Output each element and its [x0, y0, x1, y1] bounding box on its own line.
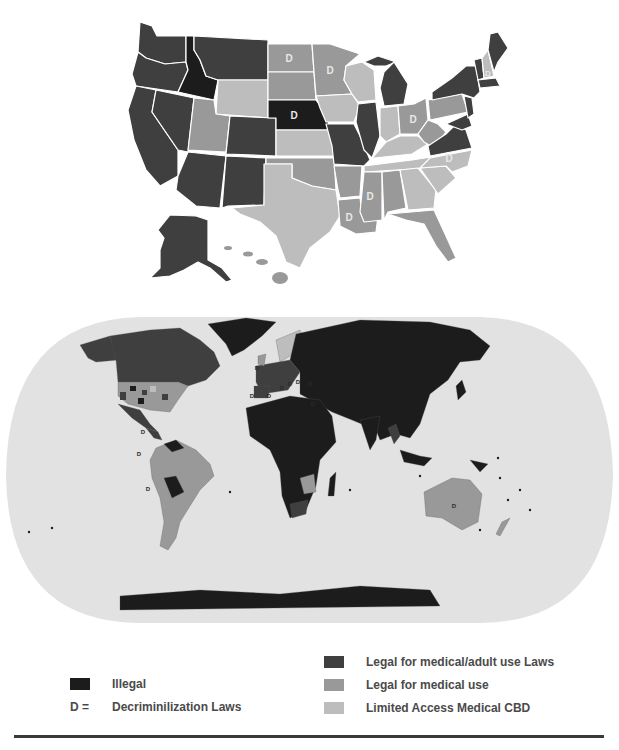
state-florida — [388, 210, 456, 262]
state-alaska — [150, 215, 232, 282]
state-wyoming — [216, 80, 268, 118]
state-arizona — [176, 152, 226, 208]
legend-decrim-label: Decriminilization Laws — [112, 700, 241, 714]
state-kansas — [276, 130, 334, 156]
decrim-marker-minnesota: D — [326, 65, 333, 76]
decrim-marker-uk: D — [255, 365, 260, 371]
decrim-marker-nebraska: D — [290, 110, 297, 121]
legend-decrim: D = Decriminilization Laws — [70, 700, 241, 714]
state-colorado — [226, 116, 276, 156]
decrim-marker-north-dakota: D — [285, 53, 292, 64]
usa-cbd-state — [150, 386, 156, 392]
decrim-marker-costa-rica: D — [137, 451, 142, 457]
cbd-swatch — [324, 702, 344, 714]
usa-legal-state — [120, 392, 126, 400]
decrim-marker-portugal: D — [250, 393, 255, 399]
decrim-marker-louisiana: D — [345, 212, 352, 223]
state-indiana — [380, 106, 400, 142]
legend-medical-label: Legal for medical use — [366, 678, 489, 692]
state-michigan-lower — [380, 62, 408, 106]
decrim-marker-north-carolina: D — [445, 153, 452, 164]
decrim-marker-spain: D — [267, 393, 272, 399]
legend-medical-adult-label: Legal for medical/adult use Laws — [366, 655, 554, 669]
medical-adult-swatch — [324, 656, 344, 668]
decrim-marker-croatia: D — [288, 381, 293, 387]
state-massachusetts — [478, 78, 500, 88]
decrim-marker-italy: D — [280, 385, 285, 391]
decrim-marker-mississippi: D — [366, 191, 373, 202]
state-south-dakota — [268, 72, 316, 100]
decrim-marker-australia: D — [452, 503, 457, 509]
state-new-york — [432, 66, 480, 100]
state-kentucky — [372, 136, 428, 158]
legend-illegal: Illegal — [70, 677, 146, 691]
usa-illegal-state — [130, 386, 136, 391]
usa-illegal-state — [138, 398, 144, 404]
legend: Illegal D = Decriminilization Laws Legal… — [0, 640, 619, 735]
decrim-marker-new-hampshire: D — [485, 69, 491, 78]
legend-medical-adult: Legal for medical/adult use Laws — [324, 655, 554, 669]
decrim-key: D = — [70, 700, 112, 714]
legend-illegal-label: Illegal — [112, 677, 146, 691]
us-map: D D D D D D D D — [0, 0, 619, 300]
state-arkansas — [334, 166, 362, 198]
state-new-mexico — [222, 156, 266, 208]
decrim-marker-peru: D — [146, 486, 151, 492]
decrim-marker-israel: D — [311, 401, 316, 407]
legend-cbd-label: Limited Access Medical CBD — [366, 701, 530, 715]
bottom-divider — [14, 735, 604, 738]
state-hawaii — [224, 246, 288, 284]
legend-cbd: Limited Access Medical CBD — [324, 701, 530, 715]
legend-medical: Legal for medical use — [324, 678, 489, 692]
state-montana — [194, 36, 268, 80]
usa-legal-state — [142, 390, 147, 395]
decrim-marker-ukraine: D — [308, 381, 313, 387]
decrim-marker-jamaica: D — [141, 429, 146, 435]
medical-swatch — [324, 679, 344, 691]
usa-legal-state — [162, 394, 168, 400]
illegal-swatch — [70, 678, 90, 690]
decrim-marker-czech: D — [296, 379, 301, 385]
world-map: D D D D D D D D D D D D — [0, 300, 619, 635]
decrim-marker-ohio: D — [409, 114, 416, 125]
